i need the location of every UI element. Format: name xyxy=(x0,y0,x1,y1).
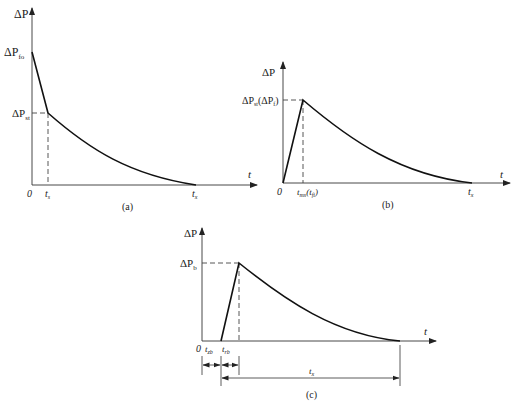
x-axis-label: t xyxy=(500,168,504,180)
origin-label: 0 xyxy=(196,343,201,354)
y-axis-label: ΔP xyxy=(14,7,29,21)
caption-a: (a) xyxy=(122,201,133,213)
origin-label: 0 xyxy=(277,186,282,197)
caption-c: (c) xyxy=(306,389,317,401)
x-tick-t-zb: tzb xyxy=(205,344,213,355)
y-tick-dp-st-dp-f: ΔPst(ΔPf) xyxy=(242,95,279,107)
dim-label-t-x: tx xyxy=(309,366,315,377)
pressure-curve-b xyxy=(283,100,472,183)
x-tick-t-s: ts xyxy=(45,188,51,200)
figure-c: ΔP t 0 ΔPb tzb trb tx (c) xyxy=(180,227,436,401)
y-axis-label: ΔP xyxy=(184,227,197,239)
x-tick-t-ms-t-fi: tms(tfi) xyxy=(297,187,318,198)
pressure-time-diagrams: ΔP t 0 ΔPfo ΔPst ts tx (a) ΔP t 0 ΔPst(Δ… xyxy=(0,0,517,412)
x-tick-t-x: tx xyxy=(468,186,474,198)
figure-b: ΔP t 0 ΔPst(ΔPf) tms(tfi) tx (b) xyxy=(242,62,510,211)
y-axis-label: ΔP xyxy=(262,66,275,78)
x-tick-t-rb: trb xyxy=(222,344,230,355)
caption-b: (b) xyxy=(382,199,394,211)
x-tick-t-x: tx xyxy=(192,188,198,200)
x-axis-label: t xyxy=(424,325,428,337)
origin-label: 0 xyxy=(27,188,32,199)
y-tick-dp-st: ΔPst xyxy=(12,107,30,122)
x-axis-label: t xyxy=(248,168,252,180)
pressure-curve-a xyxy=(32,52,196,185)
figure-a: ΔP t 0 ΔPfo ΔPst ts tx (a) xyxy=(4,7,257,213)
y-tick-dp-b: ΔPb xyxy=(180,257,197,272)
pressure-curve-c xyxy=(221,263,400,341)
y-tick-dp-fo: ΔPfo xyxy=(4,45,25,61)
